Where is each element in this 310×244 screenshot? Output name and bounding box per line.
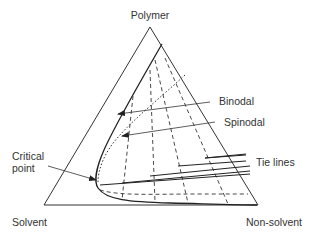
spinodal-label: Spinodal [224,116,265,128]
tie-lines-label: Tie lines [256,156,295,168]
ternary-diagram: Polymer Solvent Non-solvent Binodal Spin… [0,0,310,244]
critical-point-pointer [48,166,96,180]
dashed-grid-lines [100,58,248,204]
polymer-label: Polymer [131,9,170,21]
solvent-label: Solvent [12,216,47,228]
critical-point-label-line2: point [12,162,35,174]
critical-point-label-line1: Critical [12,150,44,162]
non-solvent-label: Non-solvent [246,216,302,228]
tie-lines [100,154,250,185]
binodal-label: Binodal [219,95,254,107]
spinodal-pointer [122,122,215,136]
